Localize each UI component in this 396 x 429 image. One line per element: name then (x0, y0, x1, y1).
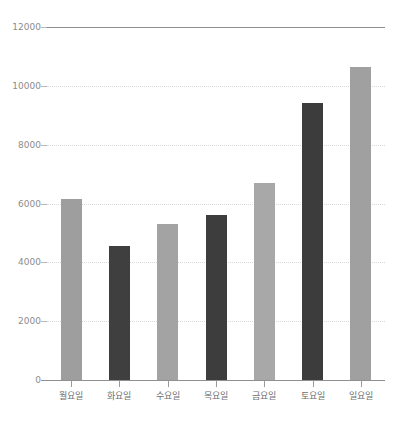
x-tick-mark (119, 380, 120, 387)
x-tick-label: 토요일 (301, 392, 325, 402)
plot-area (47, 27, 385, 380)
y-tick-label: 8000 (18, 140, 41, 149)
x-tick-mark (216, 380, 217, 387)
x-tick-mark (313, 380, 314, 387)
x-tick-label: 금요일 (252, 392, 276, 402)
y-tick-label: 4000 (18, 258, 41, 267)
bar-화요일[interactable] (109, 246, 130, 380)
x-tick-mark (168, 380, 169, 387)
y-tick-label: 2000 (18, 317, 41, 326)
x-tick-label: 일요일 (349, 392, 373, 402)
bar-일요일[interactable] (350, 67, 371, 380)
bar-토요일[interactable] (302, 103, 323, 380)
bar-목요일[interactable] (206, 215, 227, 380)
bar-금요일[interactable] (254, 183, 275, 380)
x-tick-mark (264, 380, 265, 387)
x-tick-label: 화요일 (107, 392, 131, 402)
x-axis-line (41, 380, 385, 381)
x-tick-label: 수요일 (156, 392, 180, 402)
x-tick-label: 목요일 (204, 392, 228, 402)
y-tick-label: 10000 (12, 81, 41, 90)
x-tick-label: 월요일 (59, 392, 83, 402)
bar-월요일[interactable] (61, 199, 82, 380)
bar-수요일[interactable] (157, 224, 178, 380)
y-tick-label: 12000 (12, 23, 41, 32)
x-tick-mark (71, 380, 72, 387)
x-tick-mark (361, 380, 362, 387)
y-tick-label: 6000 (18, 199, 41, 208)
bar-chart: 020004000600080001000012000 월요일화요일수요일목요일… (0, 0, 396, 429)
